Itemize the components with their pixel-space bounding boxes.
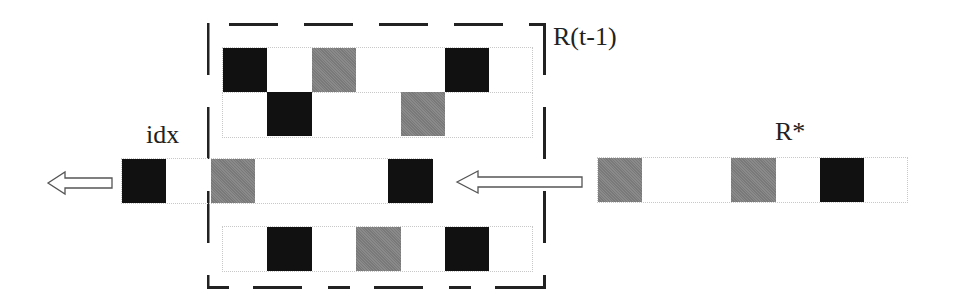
target-label: R* [775,119,805,145]
empty-cell [300,159,344,203]
black-cell [445,48,489,92]
left-arrow-icon [45,169,115,197]
prev-region-label: R(t-1) [553,24,617,50]
empty-cell [489,48,533,92]
bottom-row [222,226,533,272]
empty-cell [223,92,267,136]
index-label: idx [146,122,179,148]
black-cell [122,159,166,203]
gray-cell [401,92,445,136]
empty-cell [489,92,533,136]
prev-row-2 [222,92,533,138]
empty-cell [864,158,908,202]
empty-cell [445,92,489,136]
empty-cell [776,158,820,202]
empty-cell [255,159,299,203]
prev-row-1 [222,47,533,93]
black-cell [820,158,864,202]
black-cell [388,159,432,203]
empty-cell [356,92,400,136]
empty-cell [401,227,445,271]
target-row [597,157,908,203]
idx-row [121,158,432,204]
empty-cell [223,227,267,271]
black-cell [445,227,489,271]
gray-cell [312,48,356,92]
empty-cell [356,48,400,92]
black-cell [267,227,311,271]
empty-cell [344,159,388,203]
empty-cell [687,158,731,202]
empty-cell [267,48,311,92]
empty-cell [401,48,445,92]
empty-cell [312,227,356,271]
gray-cell [598,158,642,202]
gray-cell [731,158,775,202]
empty-cell [489,227,533,271]
empty-cell [166,159,210,203]
empty-cell [642,158,686,202]
middle-arrow-icon [454,168,586,196]
gray-cell [356,227,400,271]
black-cell [223,48,267,92]
black-cell [267,92,311,136]
empty-cell [312,92,356,136]
gray-cell [211,159,255,203]
